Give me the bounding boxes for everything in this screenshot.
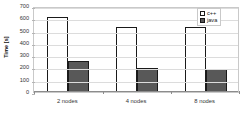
y-axis-tickmark (32, 33, 35, 34)
bar-chart: Time [s] 0100200300400500600700 2 nodes4… (0, 0, 244, 118)
bar-java-2-nodes (68, 61, 89, 92)
y-axis-tickmark (32, 8, 35, 9)
y-axis-tick-label: 0 (26, 90, 29, 96)
gridline (34, 57, 238, 58)
y-axis-tickmark (32, 20, 35, 21)
legend-item-java[interactable]: java (200, 18, 217, 24)
legend-swatch-cpp-icon (200, 11, 205, 16)
x-axis-tick-labels: 2 nodes4 nodes8 nodes (33, 98, 239, 112)
y-axis-tickmark (32, 69, 35, 70)
bar-java-4-nodes (137, 68, 158, 92)
y-axis-tickmark (32, 94, 35, 95)
y-axis-tickmark (32, 82, 35, 83)
x-axis-tick-label: 2 nodes (57, 98, 78, 104)
gridline (34, 45, 238, 46)
y-axis-tick-label: 700 (20, 4, 29, 10)
y-axis-title-label: Time [s] (3, 36, 9, 57)
legend-item-cpp[interactable]: c++ (200, 11, 217, 17)
legend-item-label: c++ (207, 11, 216, 17)
y-axis-tick-label: 200 (20, 66, 29, 72)
y-axis-tickmark (32, 45, 35, 46)
gridline (34, 69, 238, 70)
y-axis-title: Time [s] (0, 0, 12, 93)
chart-legend: c++java (197, 8, 221, 26)
y-axis-tick-labels: 0100200300400500600700 (12, 0, 31, 100)
x-axis-baseline (34, 91, 238, 92)
gridline (34, 82, 238, 83)
legend-swatch-java-icon (200, 18, 205, 23)
y-axis-tick-label: 400 (20, 41, 29, 47)
y-axis-tick-label: 300 (20, 53, 29, 59)
legend-item-label: java (207, 18, 217, 24)
x-axis-tickmark (239, 91, 240, 94)
bar-java-8-nodes (206, 69, 227, 92)
gridline (34, 33, 238, 34)
y-axis-tick-label: 500 (20, 29, 29, 35)
x-axis-tick-label: 8 nodes (194, 98, 215, 104)
y-axis-tick-label: 100 (20, 78, 29, 84)
y-axis-tick-label: 600 (20, 16, 29, 22)
y-axis-tickmark (32, 57, 35, 58)
x-axis-tick-label: 4 nodes (126, 98, 147, 104)
